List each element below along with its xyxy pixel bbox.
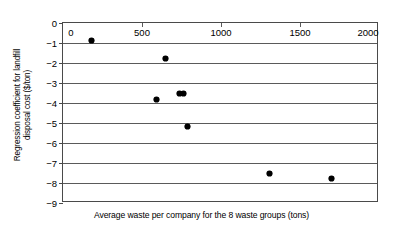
y-tick-mark [59, 43, 63, 44]
x-tick-label: 1000 [210, 27, 231, 38]
y-tick-mark [59, 63, 63, 64]
y-tick-mark [59, 203, 63, 204]
y-tick-label: −9 [46, 198, 57, 209]
data-point [185, 124, 190, 129]
gridline [63, 83, 377, 84]
data-point [163, 56, 168, 61]
gridline [63, 163, 377, 164]
plot-area: 0−1−2−3−4−5−6−7−8−9 0500100015002000 [62, 22, 378, 202]
data-point [181, 91, 186, 96]
gridline [63, 63, 377, 64]
y-tick-mark [59, 123, 63, 124]
gridline [63, 143, 377, 144]
y-tick-label: −4 [46, 98, 57, 109]
y-axis-title-line-1: Regression coefficient for landfill [13, 49, 24, 161]
y-tick-label: −2 [46, 58, 57, 69]
gridline [63, 43, 377, 44]
y-tick-mark [59, 143, 63, 144]
y-tick-mark [59, 163, 63, 164]
y-tick-label: −8 [46, 178, 57, 189]
scatter-chart-figure: Regression coefficient for landfill disp… [0, 0, 403, 233]
gridline [63, 123, 377, 124]
gridline [63, 103, 377, 104]
x-tick-label: 1500 [289, 27, 310, 38]
y-tick-label: −7 [46, 158, 57, 169]
y-axis-title: Regression coefficient for landfill disp… [8, 5, 38, 205]
y-tick-mark [59, 23, 63, 24]
y-tick-label: −1 [46, 38, 57, 49]
x-tick-label: 500 [134, 27, 150, 38]
data-point [267, 171, 272, 176]
x-axis-title: Average waste per company for the 8 wast… [0, 210, 403, 220]
y-tick-label: −6 [46, 138, 57, 149]
gridline [63, 183, 377, 184]
y-tick-label: −3 [46, 78, 57, 89]
x-tick-label: 2000 [357, 27, 378, 38]
y-tick-mark [59, 103, 63, 104]
x-tick-label: 0 [68, 27, 73, 38]
y-tick-mark [59, 183, 63, 184]
y-tick-label: 0 [52, 18, 57, 29]
data-point [329, 176, 334, 181]
y-tick-label: −5 [46, 118, 57, 129]
data-point [89, 38, 94, 43]
data-point [154, 97, 159, 102]
y-axis-title-line-2: disposal cost ($/ton) [23, 70, 34, 140]
y-tick-mark [59, 83, 63, 84]
